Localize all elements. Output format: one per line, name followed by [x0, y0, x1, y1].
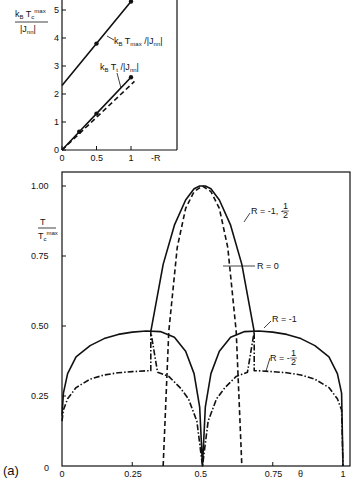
main-y-label: T Tcmax	[38, 217, 58, 242]
svg-text:0.50: 0.50	[31, 321, 49, 331]
inset-plot: 01234500.51 kB Tcmax |Jnn| -R kB Tmax /|…	[15, 0, 177, 163]
main-x-label: θ	[298, 469, 303, 479]
svg-text:5: 5	[54, 5, 59, 15]
inset-x-label: -R	[151, 153, 161, 163]
inset-ticks: 01234500.51	[54, 5, 134, 163]
main-plot: 00.250.500.751.0000.250.50.751 T Tcmax θ…	[3, 172, 350, 479]
annotation-tmax: kB Tmax /|Jnn|	[114, 36, 163, 47]
svg-text:0.5: 0.5	[195, 469, 208, 479]
svg-text:2: 2	[283, 210, 288, 220]
series-r-1-2	[62, 332, 343, 466]
svg-text:0.75: 0.75	[265, 469, 283, 479]
svg-text:1: 1	[54, 117, 59, 127]
svg-text:1.00: 1.00	[31, 181, 49, 191]
svg-text:0.25: 0.25	[124, 469, 142, 479]
svg-text:0: 0	[60, 153, 65, 163]
series-r-1	[62, 331, 343, 466]
annotation-rm1: R = -1	[272, 314, 297, 324]
annotation-tt: kB Tt /|Jnn|	[100, 62, 139, 73]
main-ticks: 00.250.500.751.0000.250.50.751	[31, 181, 346, 479]
svg-text:Tcmax: Tcmax	[38, 230, 58, 242]
series-r-1-1-2	[151, 186, 254, 332]
svg-text:0: 0	[60, 469, 65, 479]
main-frame	[62, 172, 350, 466]
annotation-r0: R = 0	[257, 261, 279, 271]
svg-text:0.5: 0.5	[91, 153, 104, 163]
svg-text:0: 0	[44, 463, 49, 473]
svg-text:1: 1	[129, 153, 134, 163]
svg-text:3: 3	[54, 61, 59, 71]
svg-text:T: T	[40, 217, 46, 227]
svg-text:4: 4	[54, 33, 59, 43]
inset-y-label: kB Tcmax |Jnn|	[15, 8, 48, 35]
svg-text:2: 2	[54, 89, 59, 99]
svg-text:0.25: 0.25	[31, 391, 49, 401]
svg-text:0: 0	[54, 145, 59, 155]
inset-series	[62, 0, 134, 150]
svg-text:|Jnn|: |Jnn|	[20, 24, 36, 35]
figure: 01234500.51 kB Tcmax |Jnn| -R kB Tmax /|…	[0, 0, 357, 493]
main-series	[62, 186, 343, 466]
annotation-rmhalf: R = -	[270, 353, 290, 363]
svg-text:kB Tcmax: kB Tcmax	[15, 8, 46, 20]
annotation-r-m1-mhalf: R = -1, -	[251, 206, 284, 216]
inset-line	[62, 81, 134, 150]
series-r-0	[163, 186, 242, 466]
panel-label: (a)	[3, 463, 19, 478]
svg-text:2: 2	[291, 357, 296, 367]
svg-text:1: 1	[341, 469, 346, 479]
svg-text:0.75: 0.75	[31, 251, 49, 261]
